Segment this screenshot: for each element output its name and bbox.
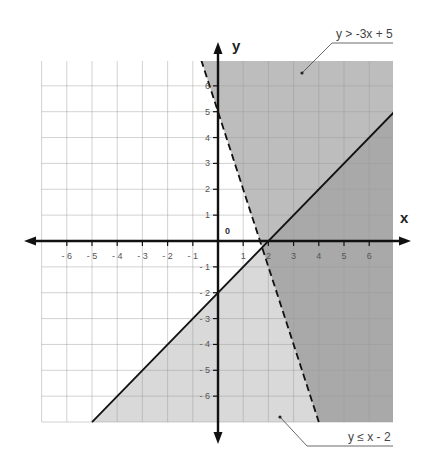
- x-tick-label: - 1: [188, 251, 199, 261]
- x-axis-label: x: [400, 209, 409, 226]
- y-tick-label: - 3: [199, 314, 210, 324]
- annotation-top-text: y > -3x + 5: [336, 27, 393, 41]
- x-tick-label: - 6: [62, 251, 73, 261]
- x-tick-label: 5: [341, 251, 346, 261]
- x-tick-label: - 4: [112, 251, 123, 261]
- origin-label: 0: [225, 226, 230, 236]
- x-tick-label: - 5: [87, 251, 98, 261]
- y-tick-label: 5: [205, 107, 210, 117]
- y-tick-label: 4: [205, 133, 210, 143]
- x-tick-label: 3: [291, 251, 296, 261]
- y-tick-label: 3: [205, 158, 210, 168]
- annotation-top-dot: [300, 71, 303, 74]
- annotation-bottom-dot: [278, 415, 281, 418]
- y-tick-label: - 5: [199, 365, 210, 375]
- y-tick-label: 2: [205, 184, 210, 194]
- y-tick-label: - 1: [199, 262, 210, 272]
- x-tick-label: 1: [241, 251, 246, 261]
- y-axis-up-arrow-icon: [214, 42, 223, 54]
- y-axis-down-arrow-icon: [214, 432, 223, 444]
- x-axis-right-arrow-icon: [399, 237, 411, 246]
- x-tick-label: 2: [266, 251, 271, 261]
- y-tick-label: 6: [205, 81, 210, 91]
- x-tick-label: 6: [367, 251, 372, 261]
- inequality-graph: - 6- 5- 4- 3- 2- 1123456- 6- 5- 4- 3- 2-…: [0, 0, 430, 469]
- y-tick-label: - 2: [199, 288, 210, 298]
- x-tick-label: - 3: [137, 251, 148, 261]
- x-axis-left-arrow-icon: [24, 237, 36, 246]
- y-tick-label: - 4: [199, 339, 210, 349]
- y-tick-label: - 6: [199, 391, 210, 401]
- x-tick-label: - 2: [162, 251, 173, 261]
- annotation-bottom-text: y ≤ x - 2: [348, 430, 391, 444]
- x-tick-label: 4: [316, 251, 321, 261]
- y-axis-label: y: [232, 37, 241, 54]
- y-tick-label: 1: [205, 210, 210, 220]
